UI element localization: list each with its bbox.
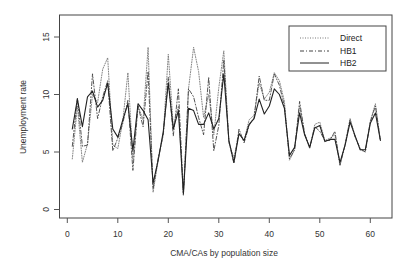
series-hb1 bbox=[72, 60, 380, 195]
y-axis-title: Unemployment rate bbox=[18, 80, 28, 154]
y-tick-label: 0 bbox=[41, 207, 51, 212]
x-tick-label: 10 bbox=[113, 229, 123, 239]
x-tick-label: 60 bbox=[366, 229, 376, 239]
legend-box bbox=[289, 26, 386, 71]
legend-label-hb2: HB2 bbox=[340, 58, 357, 68]
legend-label-hb1: HB1 bbox=[340, 46, 357, 56]
x-tick-label: 0 bbox=[65, 229, 70, 239]
x-axis-title: CMA/CAs by population size bbox=[170, 248, 278, 258]
x-tick-label: 30 bbox=[214, 229, 224, 239]
x-tick-label: 20 bbox=[164, 229, 174, 239]
line-chart: 051015 0102030405060 Direct HB1 HB2 CMA/… bbox=[0, 0, 414, 275]
x-axis: 0102030405060 bbox=[65, 218, 375, 239]
x-tick-label: 40 bbox=[265, 229, 275, 239]
y-axis: 051015 bbox=[41, 32, 60, 212]
y-tick-label: 10 bbox=[41, 90, 51, 100]
legend: Direct HB1 HB2 bbox=[289, 26, 386, 71]
y-tick-label: 5 bbox=[41, 149, 51, 154]
x-tick-label: 50 bbox=[315, 229, 325, 239]
legend-label-direct: Direct bbox=[340, 33, 363, 43]
y-tick-label: 15 bbox=[41, 32, 51, 42]
